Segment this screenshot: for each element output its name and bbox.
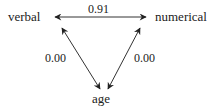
edge-label-numerical-age: 0.00	[134, 52, 155, 64]
edge-verbal-age	[62, 28, 100, 89]
node-verbal: verbal	[8, 10, 40, 23]
node-age: age	[92, 92, 110, 105]
edge-label-verbal-numerical: 0.91	[88, 3, 109, 15]
edge-label-verbal-age: 0.00	[45, 52, 66, 64]
node-numerical: numerical	[155, 10, 207, 23]
